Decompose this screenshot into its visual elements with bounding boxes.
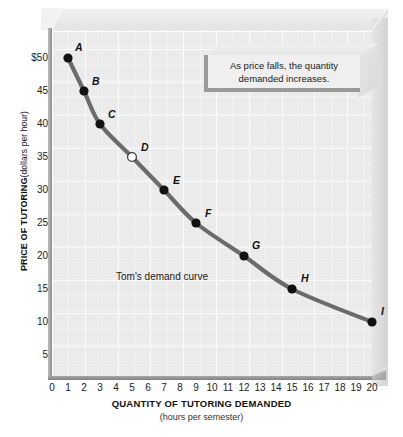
callout-line-1: As price falls, the quantity [230, 60, 338, 71]
data-point-H [287, 284, 296, 293]
data-point-F [191, 218, 200, 227]
point-label-H: H [301, 273, 309, 283]
curve-annotation: Tom's demand curve [116, 271, 208, 282]
demand-curve-figure: $50 45 40 35 30 25 20 15 10 5 0123456789… [0, 0, 403, 437]
data-point-G [239, 251, 248, 260]
point-label-F: F [205, 208, 211, 218]
point-label-G: G [252, 240, 260, 250]
point-label-C: C [108, 109, 116, 119]
data-point-I [367, 317, 376, 326]
point-label-E: E [173, 175, 180, 185]
callout-box: As price falls, the quantity demanded in… [198, 44, 378, 98]
callout-line-2: demanded increases. [239, 73, 330, 84]
data-point-C [95, 119, 104, 128]
callout-front-face: As price falls, the quantity demanded in… [204, 55, 360, 92]
point-label-D: D [141, 142, 149, 152]
data-point-A [63, 53, 72, 62]
data-point-D [128, 153, 137, 162]
point-label-I: I [381, 306, 384, 316]
point-label-A: A [75, 42, 83, 52]
data-point-B [79, 86, 88, 95]
data-point-E [159, 185, 168, 194]
callout-text: As price falls, the quantity demanded in… [224, 59, 344, 85]
point-label-B: B [92, 76, 100, 86]
